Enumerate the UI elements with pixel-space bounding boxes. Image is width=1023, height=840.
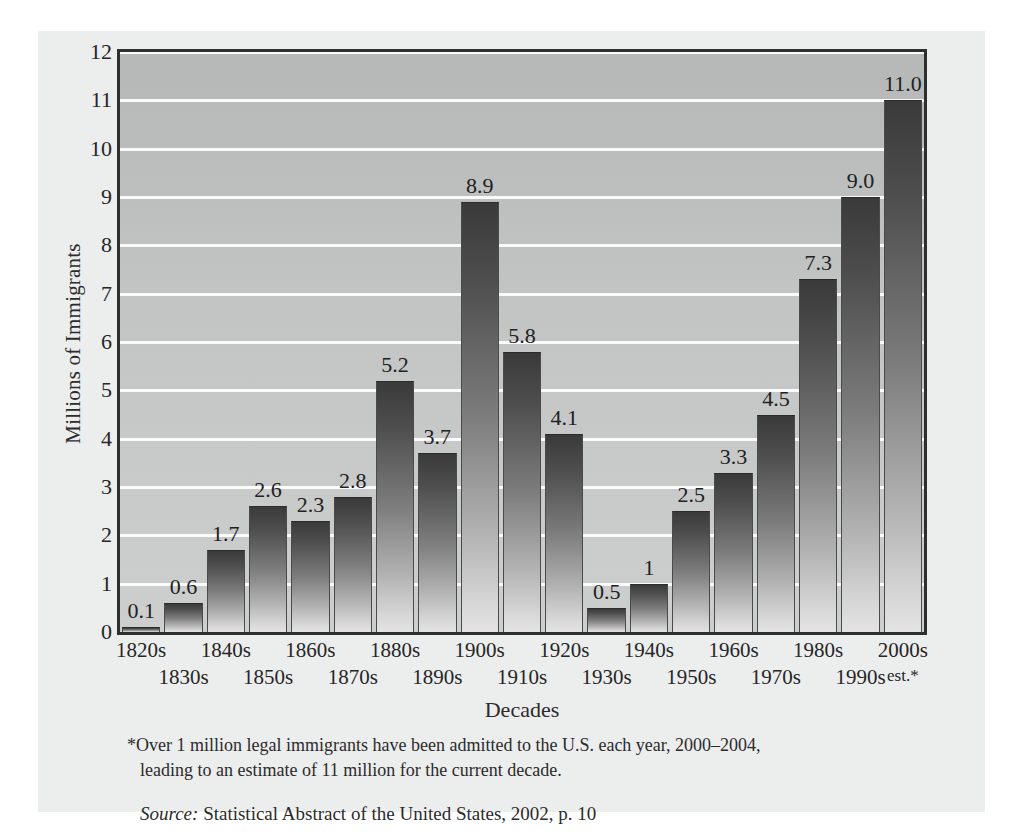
bar-value-label: 3.7 [418,424,456,450]
bar[interactable] [799,279,837,632]
x-tick-label: 1880s [370,638,420,663]
bar-value-label: 5.8 [503,323,541,349]
immigration-bar-chart: Millions of Immigrants 0123456789101112 … [38,31,985,731]
x-axis-tick-labels: 1820s1830s1840s1850s1860s1870s1880s1890s… [117,638,927,700]
source-text: Statistical Abstract of the United State… [203,803,596,824]
bar[interactable] [249,506,287,632]
bars-layer: 0.10.61.72.62.32.85.23.78.95.84.10.512.5… [120,52,924,632]
bar-value-label: 2.8 [334,468,372,494]
x-tick-label: 1980s [793,638,843,663]
bar-value-label: 0.1 [122,598,160,624]
bar[interactable] [122,627,160,632]
x-tick-label: 1830s [158,665,208,690]
y-tick-label: 1 [60,571,112,597]
x-tick-label: 1840s [201,638,251,663]
x-tick-label: 2000s [878,638,928,663]
y-tick-label: 2 [60,522,112,548]
x-tick-label: 1890s [412,665,462,690]
bar[interactable] [503,352,541,632]
bar-value-label: 9.0 [841,168,879,194]
bar[interactable] [418,453,456,632]
bar-value-label: 2.6 [249,477,287,503]
x-tick-label: 1970s [751,665,801,690]
bar-value-label: 7.3 [799,250,837,276]
bar[interactable] [164,603,202,632]
y-tick-label: 3 [60,474,112,500]
y-tick-label: 9 [60,184,112,210]
x-tick-label: 1930s [582,665,632,690]
plot-area: 0.10.61.72.62.32.85.23.78.95.84.10.512.5… [117,49,927,635]
footnote-line-2: leading to an estimate of 11 million for… [127,758,967,783]
bar[interactable] [714,473,752,633]
y-tick-label: 4 [60,426,112,452]
chart-footnote: *Over 1 million legal immigrants have be… [127,733,967,783]
y-tick-label: 5 [60,377,112,403]
bar[interactable] [672,511,710,632]
bar[interactable] [461,202,499,632]
bar[interactable] [207,550,245,632]
y-axis-tick-labels: 0123456789101112 [60,49,112,635]
bar-value-label: 0.5 [587,579,625,605]
bar[interactable] [884,100,922,632]
x-tick-label: 1910s [497,665,547,690]
bar-value-label: 3.3 [714,444,752,470]
y-tick-label: 6 [60,329,112,355]
bar-value-label: 11.0 [884,71,922,97]
x-tick-label: 1920s [539,638,589,663]
x-tick-label: 1900s [455,638,505,663]
bar-value-label: 2.5 [672,482,710,508]
bar[interactable] [757,415,795,633]
x-tick-label: 1940s [624,638,674,663]
bar-value-label: 1 [630,555,668,581]
y-tick-label: 10 [60,136,112,162]
bar-value-label: 8.9 [461,173,499,199]
y-tick-label: 11 [60,87,112,113]
y-tick-label: 12 [60,39,112,65]
bar[interactable] [376,381,414,632]
x-tick-label: 1870s [328,665,378,690]
footnote-line-1: *Over 1 million legal immigrants have be… [127,735,761,755]
bar-value-label: 2.3 [291,492,329,518]
x-tick-label: 1960s [708,638,758,663]
bar[interactable] [841,197,879,632]
y-tick-label: 7 [60,281,112,307]
y-tick-label: 0 [60,619,112,645]
bar-value-label: 5.2 [376,352,414,378]
bar[interactable] [291,521,329,632]
bar[interactable] [545,434,583,632]
bar-value-label: 1.7 [207,521,245,547]
x-tick-label: 1820s [116,638,166,663]
bar-value-label: 4.1 [545,405,583,431]
x-tick-sublabel: est.* [887,666,919,686]
x-tick-label: 1990s [835,665,885,690]
x-axis-title: Decades [117,697,927,723]
y-tick-label: 8 [60,232,112,258]
x-tick-label: 1950s [666,665,716,690]
bar[interactable] [630,584,668,632]
bar[interactable] [587,608,625,632]
bar-value-label: 0.6 [164,574,202,600]
bar-value-label: 4.5 [757,386,795,412]
source-label: Source: [140,803,198,824]
bar[interactable] [334,497,372,632]
source-line: Source: Statistical Abstract of the Unit… [140,803,980,825]
x-tick-label: 1850s [243,665,293,690]
x-tick-label: 1860s [285,638,335,663]
figure-panel: Millions of Immigrants 0123456789101112 … [38,31,985,812]
